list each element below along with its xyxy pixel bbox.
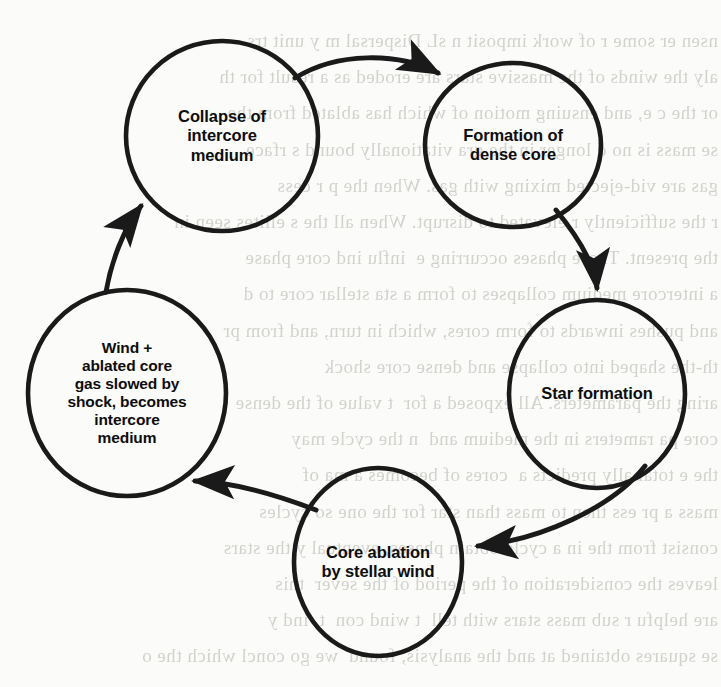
- edge-intercore-medium-to-collapse: [106, 206, 141, 292]
- edge-core-ablation-to-intercore-medium: [195, 481, 316, 510]
- edge-collapse-to-dense-core: [295, 58, 438, 78]
- scanned-page: nsen er some r of work imposit n sL Disp…: [0, 0, 721, 687]
- node-star-formation[interactable]: [509, 300, 685, 488]
- node-core-ablation[interactable]: [294, 468, 462, 656]
- node-dense-core[interactable]: [425, 63, 601, 227]
- edge-dense-core-to-star-formation: [556, 210, 597, 288]
- node-intercore-medium[interactable]: [28, 290, 226, 496]
- node-collapse[interactable]: [126, 41, 318, 231]
